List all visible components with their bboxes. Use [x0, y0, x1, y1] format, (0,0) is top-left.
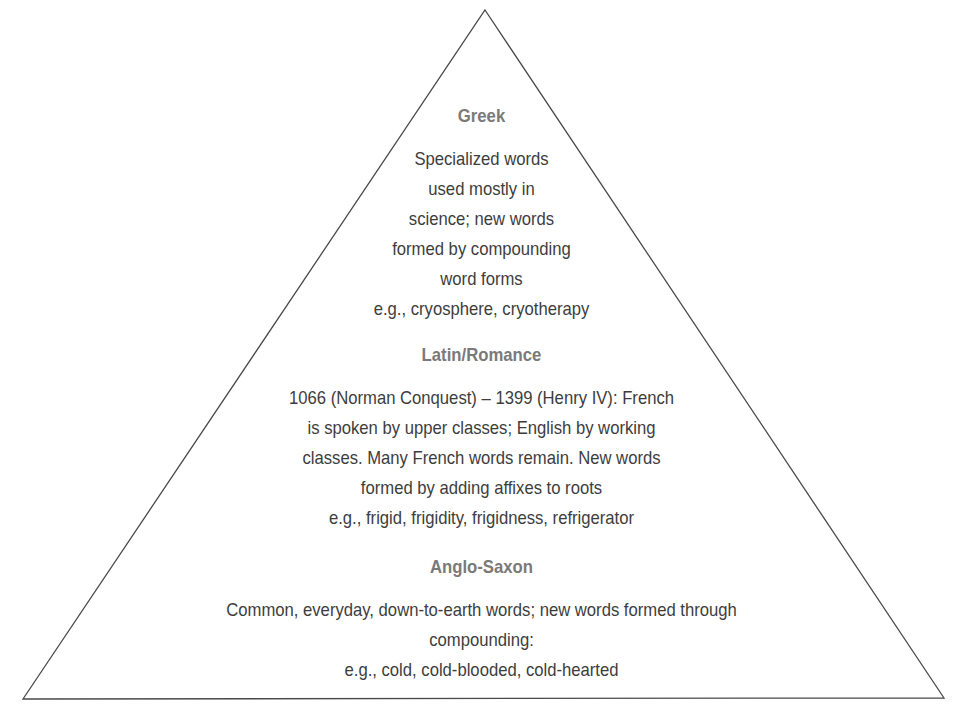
description-line: used mostly in [48, 174, 915, 204]
level-title-anglo-saxon: Anglo-Saxon [58, 552, 905, 582]
example-line: e.g., cryosphere, cryotherapy [48, 294, 915, 324]
description-line: 1066 (Norman Conquest) – 1399 (Henry IV)… [48, 383, 915, 413]
example-line: e.g., frigid, frigidity, frigidness, ref… [48, 503, 915, 533]
description-line: Common, everyday, down-to-earth words; n… [48, 595, 915, 625]
description-line: word forms [48, 264, 915, 294]
description-line: Specialized words [48, 144, 915, 174]
description-line: classes. Many French words remain. New w… [48, 443, 915, 473]
level-title-latin-romance: Latin/Romance [58, 340, 905, 370]
level-latin-romance-description: 1066 (Norman Conquest) – 1399 (Henry IV)… [0, 383, 963, 533]
description-line: formed by adding affixes to roots [48, 473, 915, 503]
description-line: compounding: [48, 625, 915, 655]
level-latin-romance: Latin/Romance [0, 340, 963, 370]
description-line: is spoken by upper classes; English by w… [48, 413, 915, 443]
level-anglo-saxon: Anglo-Saxon [0, 552, 963, 582]
level-greek: Greek [0, 101, 963, 131]
description-line: formed by compounding [48, 234, 915, 264]
level-greek-description: Specialized words used mostly in science… [0, 144, 963, 324]
example-line: e.g., cold, cold-blooded, cold-hearted [48, 655, 915, 685]
description-line: science; new words [48, 204, 915, 234]
level-anglo-saxon-description: Common, everyday, down-to-earth words; n… [0, 595, 963, 685]
level-title-greek: Greek [58, 101, 905, 131]
